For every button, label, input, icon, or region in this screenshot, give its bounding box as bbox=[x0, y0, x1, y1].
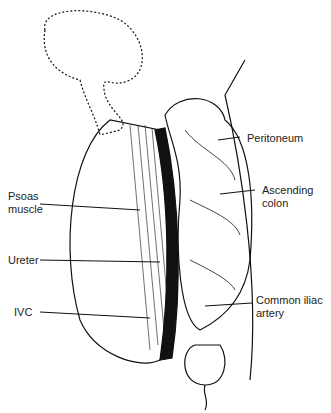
label-ivc: IVC bbox=[14, 306, 32, 319]
cecum bbox=[185, 345, 225, 385]
label-peritoneum: Peritoneum bbox=[247, 132, 303, 145]
leader-ivc bbox=[40, 312, 150, 318]
label-psoas-muscle: Psoas muscle bbox=[8, 190, 43, 216]
kidney-outline bbox=[45, 11, 143, 135]
diagram-canvas: Peritoneum Ascending colon Psoas muscle … bbox=[0, 0, 331, 413]
vessel-band bbox=[155, 128, 178, 360]
leader-psoas bbox=[40, 204, 140, 210]
leader-iliac bbox=[205, 303, 252, 306]
label-ascending-colon: Ascending colon bbox=[262, 184, 313, 210]
label-common-iliac-artery: Common iliac artery bbox=[256, 294, 323, 320]
label-ureter: Ureter bbox=[8, 254, 39, 267]
leader-peritoneum bbox=[218, 137, 240, 140]
leader-colon bbox=[220, 190, 255, 194]
